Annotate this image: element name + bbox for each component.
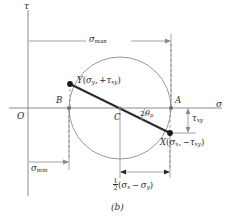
point-c-label: C [114,113,121,122]
point-y-marker [67,81,73,87]
sigma-axis-label: σ [216,100,222,109]
sigma-min-dimension [29,108,69,170]
figure-caption: (b) [111,203,124,212]
sigma-min-label: σmin [31,164,48,174]
sigma-max-dimension [29,34,171,108]
angle-2theta-p-label: 2θp [140,110,153,118]
origin-label: O [17,112,24,121]
point-x-marker [167,130,173,136]
tau-xy-subscript: xy [197,117,203,123]
point-a-label: A [175,96,181,105]
point-b-marker [67,106,71,110]
point-a-marker [169,106,173,110]
tau-xy-label: τxy [192,114,203,124]
point-b-label: B [56,96,62,105]
sigma-max-label: σmax [87,35,109,45]
point-x-tau-sign: − [183,137,190,147]
paren-close: ) [150,180,153,190]
point-x-label: X(σx, −τxy) [160,138,204,148]
point-y-label: Y(σy, +τxy) [77,76,121,86]
point-c-marker [118,106,121,109]
angle-subscript: p [150,112,153,118]
tau-axis-label: τ [24,2,29,11]
sigma-min-subscript: min [37,167,48,173]
sigma-max-subscript: max [95,38,107,44]
mohrs-circle-figure: τ σ O B A C Y(σy, +τxy) X(σx, −τxy) σmax… [0,0,233,222]
half-difference-label: 1 2 (σx − σy) [113,178,153,192]
